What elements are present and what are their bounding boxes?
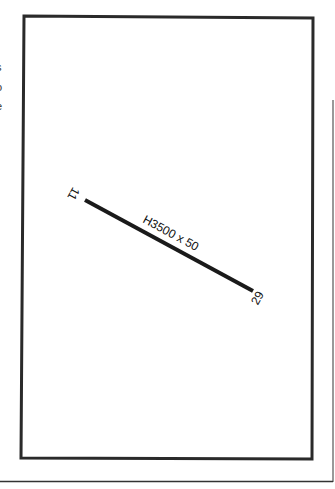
- runway-11-29: [85, 200, 253, 291]
- edge-glyph-2: o: [0, 82, 2, 93]
- runway-end-11-label: 11: [64, 185, 82, 203]
- edge-glyph-3: e: [0, 101, 2, 112]
- edge-glyph-1: s: [0, 62, 2, 73]
- airport-diagram: H3500 x 50 11 29: [0, 0, 335, 489]
